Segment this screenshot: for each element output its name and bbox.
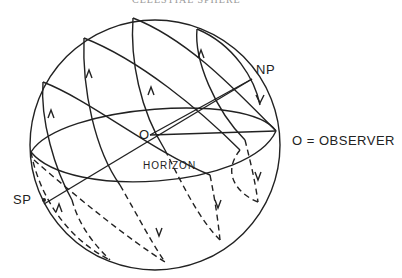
observer-line	[150, 131, 276, 135]
arrow-up-icon	[86, 70, 92, 78]
horizon-label: HORIZON	[143, 160, 196, 171]
diurnal-path-2a	[84, 38, 120, 185]
arrow-up-icon	[148, 87, 154, 95]
arrow-up-icon	[48, 110, 54, 118]
arrow-down-icon	[256, 95, 264, 103]
center-label: O	[139, 127, 150, 142]
dashed-path-7	[232, 150, 258, 202]
dashed-path-2	[72, 200, 110, 260]
observer-key-label: O = OBSERVER	[292, 133, 395, 148]
arrow-up-icon	[198, 50, 204, 58]
arrow-up-icon	[56, 204, 62, 212]
south-pole-label: SP	[13, 192, 31, 207]
arrow-down-icon	[156, 228, 162, 236]
dashed-path-6	[245, 140, 258, 202]
sphere-outline	[30, 20, 280, 270]
north-pole-label: NP	[256, 62, 275, 77]
dashed-path-3	[120, 185, 165, 262]
south-pole-dot	[42, 198, 46, 202]
dashed-path-8	[34, 160, 165, 262]
diurnal-path-1a	[43, 82, 72, 200]
diurnal-path-4a	[197, 29, 245, 140]
arrow-down-icon	[255, 172, 261, 180]
